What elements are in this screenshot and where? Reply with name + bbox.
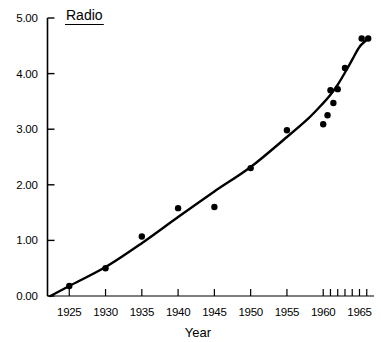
data-point [139,233,145,239]
data-point [320,121,326,127]
data-point [211,204,217,210]
chart-background [0,0,381,342]
x-tick-label-1925: 1925 [57,306,81,318]
data-point [102,265,108,271]
x-tick-label-1955: 1955 [275,306,299,318]
y-tick-label-4.00: 4.00 [16,68,37,80]
data-point [358,35,364,41]
y-tick-label-2.00: 2.00 [16,179,37,191]
y-tick-label-5.00: 5.00 [16,12,37,24]
data-point [327,87,333,93]
data-point [324,112,330,118]
data-point [284,127,290,133]
data-point [66,283,72,289]
y-tick-label-1.00: 1.00 [16,234,37,246]
chart-title: Radio [66,7,103,23]
x-tick-label-1965: 1965 [347,306,371,318]
x-tick-label-1935: 1935 [130,306,154,318]
chart-container: 0.001.002.003.004.005.00 192519301935194… [0,0,381,342]
y-tick-label-0.00: 0.00 [16,290,37,302]
x-tick-label-1950: 1950 [238,306,262,318]
data-point [175,205,181,211]
data-point [365,35,371,41]
x-tick-label-1940: 1940 [166,306,190,318]
x-tick-label-1960: 1960 [311,306,335,318]
x-axis-title: Year [185,325,212,340]
radio-growth-chart: 0.001.002.003.004.005.00 192519301935194… [0,0,381,342]
x-tick-label-1945: 1945 [202,306,226,318]
data-point [247,165,253,171]
data-point [335,86,341,92]
x-tick-label-1930: 1930 [93,306,117,318]
y-tick-label-3.00: 3.00 [16,123,37,135]
data-point [330,100,336,106]
chart-title-group: Radio [65,7,104,25]
x-axis-tick-labels: 192519301935194019451950195519601965 [57,306,372,318]
data-point [342,65,348,71]
